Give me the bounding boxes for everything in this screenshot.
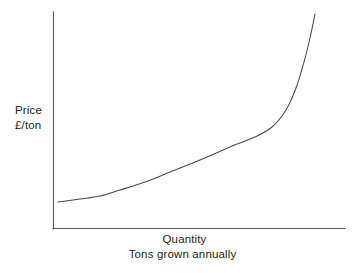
x-axis-label-line-2: Tons grown annually — [0, 247, 359, 262]
supply-curve-path — [58, 14, 315, 202]
y-axis-label: Price £/ton — [15, 103, 42, 132]
x-axis-label-line-1: Quantity — [0, 232, 359, 247]
y-axis-label-line-1: Price — [15, 103, 42, 118]
supply-curve-figure: Price £/ton Quantity Tons grown annually — [0, 0, 359, 273]
y-axis-label-line-2: £/ton — [15, 118, 42, 133]
x-axis-label: Quantity Tons grown annually — [0, 232, 359, 261]
